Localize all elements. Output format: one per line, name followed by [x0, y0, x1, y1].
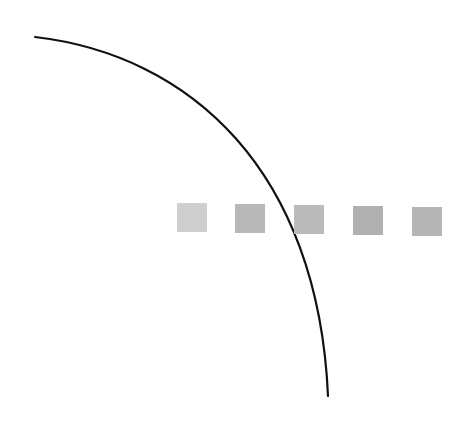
gray-square-3 — [294, 205, 324, 234]
gray-square-1 — [177, 203, 207, 232]
gray-square-4 — [353, 206, 383, 235]
gray-square-5 — [412, 207, 442, 236]
gray-square-2 — [235, 204, 265, 233]
